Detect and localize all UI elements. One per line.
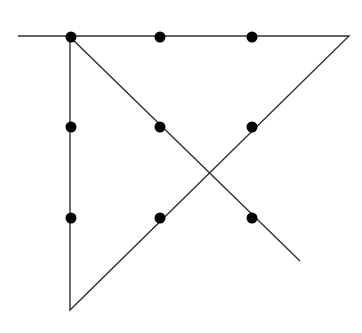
background <box>0 0 362 333</box>
dot-r2c2 <box>155 122 166 133</box>
dot-r1c1 <box>66 32 77 43</box>
nine-dot-diagram <box>0 0 362 333</box>
dot-r2c1 <box>66 122 77 133</box>
dot-r1c3 <box>247 32 258 43</box>
dot-r2c3 <box>247 122 258 133</box>
dot-r3c3 <box>247 213 258 224</box>
dot-r1c2 <box>155 32 166 43</box>
dot-r3c2 <box>155 213 166 224</box>
dot-r3c1 <box>66 213 77 224</box>
